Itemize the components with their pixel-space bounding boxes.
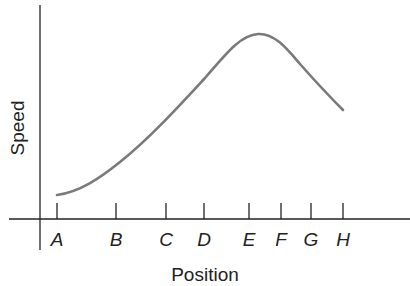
x-axis-title: Position	[171, 264, 239, 285]
x-tick-label-b: B	[110, 229, 123, 250]
speed-curve	[57, 34, 343, 195]
x-tick-label-c: C	[159, 229, 173, 250]
y-axis-title: Speed	[7, 101, 28, 156]
chart-root: ABCDEFGH Speed Position	[0, 0, 410, 286]
x-tick-label-h: H	[336, 229, 350, 250]
x-tick-label-g: G	[304, 229, 319, 250]
x-tick-label-a: A	[50, 229, 64, 250]
x-tick-label-e: E	[243, 229, 256, 250]
x-ticks: ABCDEFGH	[50, 203, 350, 250]
x-tick-label-d: D	[197, 229, 211, 250]
x-tick-label-f: F	[275, 229, 288, 250]
speed-position-chart: ABCDEFGH Speed Position	[0, 0, 410, 286]
